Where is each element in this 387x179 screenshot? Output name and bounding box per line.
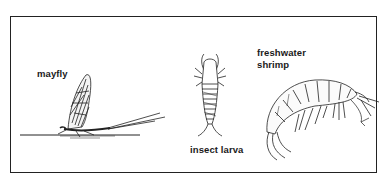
label-insect-larva: insect larva — [190, 144, 243, 156]
mayfly-illustration — [20, 65, 185, 140]
label-freshwater-shrimp-line2: shrimp — [257, 59, 289, 71]
label-freshwater-shrimp-line1: freshwater — [257, 47, 306, 59]
freshwater-shrimp-illustration — [255, 72, 380, 162]
insect-larva-illustration — [190, 52, 230, 142]
